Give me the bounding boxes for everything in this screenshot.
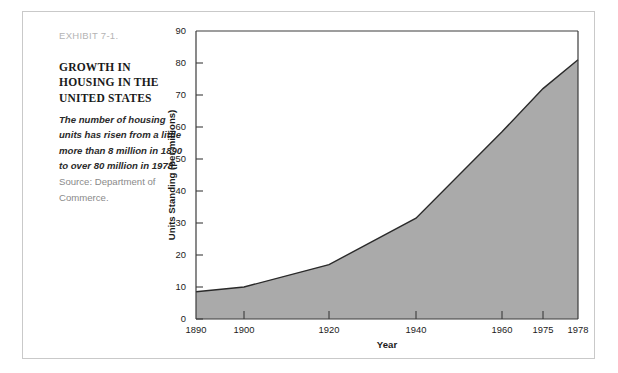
exhibit-label: EXHIBIT 7-1. [59,30,199,41]
exhibit-title: GROWTH IN HOUSING IN THE UNITED STATES [59,60,177,106]
caption-column: EXHIBIT 7-1. GROWTH IN HOUSING IN THE UN… [59,30,199,205]
exhibit-source: Source: Department of Commerce. [59,174,185,205]
exhibit-description: The number of housing units has risen fr… [59,112,185,174]
exhibit-frame: EXHIBIT 7-1. GROWTH IN HOUSING IN THE UN… [22,11,595,359]
